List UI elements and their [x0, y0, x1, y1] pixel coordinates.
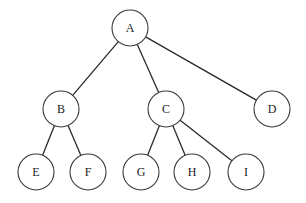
node-label: H: [188, 165, 197, 179]
node-e: E: [18, 154, 54, 190]
node-d: D: [254, 91, 290, 127]
node-label: I: [244, 165, 248, 179]
node-i: I: [228, 154, 264, 190]
node-h: H: [174, 154, 210, 190]
node-b: B: [43, 91, 79, 127]
node-f: F: [70, 154, 106, 190]
node-a: A: [112, 10, 148, 46]
node-label: E: [32, 165, 39, 179]
edge-b-f: [68, 126, 81, 156]
edge-a-d: [146, 37, 257, 100]
node-label: B: [57, 102, 65, 116]
node-label: A: [126, 21, 135, 35]
edge-a-b: [73, 42, 119, 96]
node-c: C: [148, 91, 184, 127]
node-label: C: [162, 102, 170, 116]
edge-c-h: [173, 126, 185, 156]
tree-diagram: ABCDEFGHI: [0, 0, 306, 203]
edge-a-c: [137, 44, 158, 92]
edge-b-e: [43, 126, 55, 156]
edge-c-g: [148, 126, 160, 156]
node-label: F: [85, 165, 92, 179]
node-label: G: [137, 165, 146, 179]
nodes: ABCDEFGHI: [18, 10, 290, 190]
node-g: G: [123, 154, 159, 190]
node-label: D: [268, 102, 277, 116]
